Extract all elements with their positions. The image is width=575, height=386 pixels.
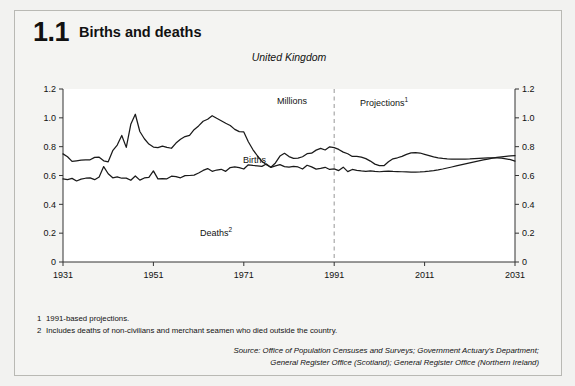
footnote-number: 1: [37, 313, 46, 325]
svg-text:2011: 2011: [415, 270, 434, 280]
svg-text:1.0: 1.0: [43, 113, 56, 123]
deaths-text: Deaths: [200, 228, 229, 238]
footnote-text: 1991-based projections.: [46, 314, 129, 323]
x-axis-ticks: 193119511971199120112031: [53, 262, 525, 280]
figure-header: 1.1 Births and deaths: [15, 11, 561, 51]
y-axis-ticks-right: 00.20.40.60.81.01.2: [515, 84, 535, 267]
svg-text:1931: 1931: [53, 270, 73, 280]
units-label: Millions: [277, 96, 307, 106]
footnote-text: Includes deaths of non-civilians and mer…: [46, 326, 337, 335]
figure-title: Births and deaths: [79, 24, 201, 40]
svg-text:1.2: 1.2: [522, 84, 535, 94]
births-series-label: Births: [243, 155, 266, 165]
svg-text:1971: 1971: [234, 270, 254, 280]
svg-text:2031: 2031: [505, 270, 525, 280]
svg-text:1.2: 1.2: [43, 84, 56, 94]
deaths-series-label: Deaths2: [200, 226, 232, 238]
svg-text:0: 0: [51, 257, 56, 267]
svg-text:1991: 1991: [324, 270, 344, 280]
svg-text:0: 0: [522, 257, 527, 267]
plot-background: [63, 89, 515, 262]
svg-text:1.0: 1.0: [522, 113, 535, 123]
source-attribution: Source: Office of Population Censuses an…: [109, 345, 539, 370]
svg-text:0.2: 0.2: [43, 228, 56, 238]
svg-text:0.4: 0.4: [43, 200, 56, 210]
svg-text:0.6: 0.6: [522, 171, 535, 181]
projections-label: Projections1: [360, 96, 408, 108]
svg-text:0.8: 0.8: [522, 142, 535, 152]
figure-card: 1.1 Births and deaths United Kingdom 00.…: [14, 10, 562, 376]
footnote-item: 11991-based projections.: [37, 313, 537, 325]
deaths-footnote-marker: 2: [229, 226, 233, 233]
source-line: Source: Office of Population Censuses an…: [109, 345, 539, 357]
footnotes-list: 11991-based projections. 2Includes death…: [37, 313, 537, 337]
svg-text:0.2: 0.2: [522, 228, 535, 238]
footnote-number: 2: [37, 325, 46, 337]
line-chart: 00.20.40.60.81.01.2 00.20.40.60.81.01.2 …: [15, 49, 563, 311]
y-axis-ticks-left: 00.20.40.60.81.01.2: [43, 84, 63, 267]
projections-footnote-marker: 1: [405, 96, 409, 103]
figure-number: 1.1: [33, 19, 69, 46]
svg-text:0.4: 0.4: [522, 200, 535, 210]
projections-text: Projections: [360, 98, 405, 108]
svg-text:0.6: 0.6: [43, 171, 56, 181]
footnote-item: 2Includes deaths of non-civilians and me…: [37, 325, 537, 337]
svg-text:0.8: 0.8: [43, 142, 56, 152]
chart-container: United Kingdom 00.20.40.60.81.01.2 00.20…: [15, 49, 563, 311]
source-line: General Register Office (Scotland); Gene…: [109, 357, 539, 369]
svg-text:1951: 1951: [143, 270, 163, 280]
page-background: 1.1 Births and deaths United Kingdom 00.…: [0, 0, 575, 386]
